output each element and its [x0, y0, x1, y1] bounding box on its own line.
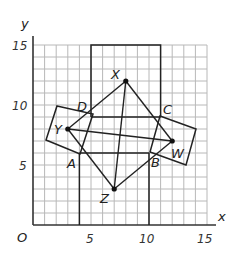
x-axis-label: x [217, 209, 226, 224]
x-tick-15: 15 [197, 232, 212, 246]
quadrilateral-xyzw [68, 81, 172, 189]
point-x [123, 78, 128, 83]
y-tick-5: 5 [19, 159, 27, 173]
point-y-label: Y [54, 122, 63, 137]
coordinate-diagram: X Y Z W A B C D y x O 15 10 5 5 10 15 [0, 0, 237, 259]
point-x-label: X [110, 67, 121, 82]
y-tick-15: 15 [12, 39, 27, 53]
origin-label: O [17, 230, 27, 245]
point-y [65, 126, 70, 131]
x-tick-10: 10 [139, 232, 155, 246]
point-z [112, 186, 117, 191]
y-axis-label: y [20, 16, 29, 31]
point-w-label: W [171, 146, 185, 161]
y-tick-10: 10 [12, 99, 28, 113]
vertex-c-label: C [163, 102, 173, 117]
vertex-a-label: A [66, 156, 76, 171]
vertex-d-label: D [77, 99, 87, 114]
x-tick-5: 5 [86, 232, 94, 246]
vertex-b-label: B [151, 155, 160, 170]
point-z-label: Z [99, 191, 110, 206]
point-w [170, 138, 175, 143]
